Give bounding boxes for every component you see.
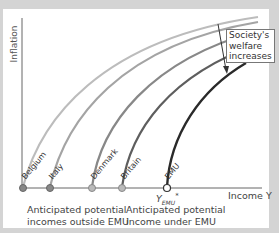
annotation-line-1: Society's xyxy=(229,30,272,41)
caption-under-line-1: Anticipated potential xyxy=(126,204,216,216)
caption-outside-line-2: incomes outside EMU xyxy=(27,216,117,228)
star-superscript: * xyxy=(175,192,179,200)
welfare-arrow xyxy=(218,24,226,70)
x-axis-label: Income Y xyxy=(228,190,272,202)
y-axis-label: Inflation xyxy=(8,26,20,63)
arrow-head-icon xyxy=(223,66,229,74)
dot-italy xyxy=(47,185,54,192)
dot-denmark xyxy=(89,185,96,192)
welfare-annotation: Society's welfare increases xyxy=(226,29,275,63)
caption-outside-line-1: Anticipated potential xyxy=(27,204,117,216)
dot-britain xyxy=(119,185,126,192)
annotation-line-3: increases xyxy=(229,51,272,62)
caption-under-emu: Anticipated potential income under EMU xyxy=(126,204,216,228)
caption-outside-emu: Anticipated potential incomes outside EM… xyxy=(27,204,117,228)
dot-belgium xyxy=(20,185,27,192)
caption-under-line-2: income under EMU xyxy=(126,216,216,228)
annotation-line-2: welfare xyxy=(229,41,272,52)
